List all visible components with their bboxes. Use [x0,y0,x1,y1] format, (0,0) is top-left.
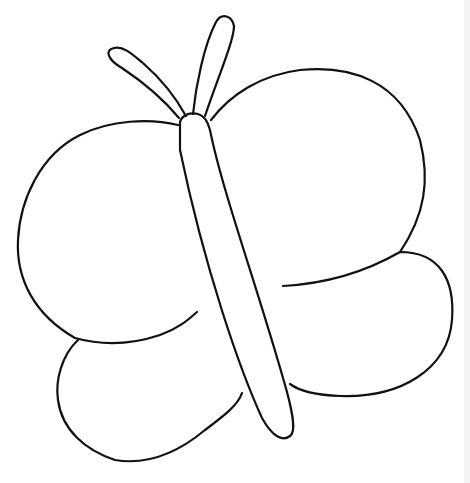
right-upper-wing [211,69,425,252]
body [180,113,293,438]
left-lower-wing [57,340,242,461]
left-upper-wing [18,121,197,343]
left-antenna [108,48,186,118]
butterfly-drawing [0,0,470,483]
right-lower-wing [283,252,452,396]
